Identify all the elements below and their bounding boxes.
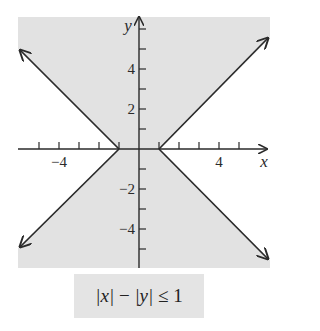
inequality-caption: |x| − |y| ≤ 1 — [74, 274, 204, 318]
caption-abs-y: |y| — [134, 285, 153, 307]
y-tick-label-4: 4 — [128, 61, 136, 77]
caption-relation: ≤ 1 — [153, 285, 182, 307]
y-tick-label-2: 2 — [128, 101, 136, 117]
caption-abs-x: |x| — [95, 285, 114, 307]
y-tick-label-neg2: −2 — [119, 181, 135, 197]
x-tick-label-4: 4 — [215, 154, 223, 170]
y-axis-label: y — [122, 16, 132, 35]
x-axis-label: x — [259, 152, 268, 171]
y-tick-label-neg4: −4 — [119, 221, 135, 237]
x-tick-label-neg4: −4 — [51, 154, 67, 170]
caption-minus: − — [114, 285, 134, 307]
